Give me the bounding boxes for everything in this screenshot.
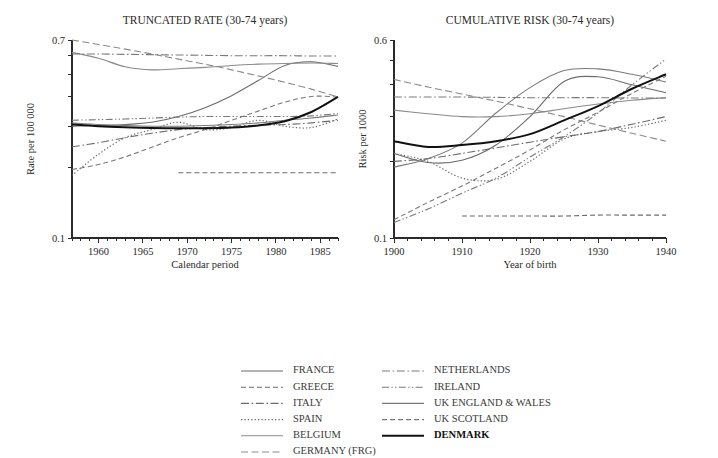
series-line-ireland: [394, 59, 666, 223]
series-line-belgium: [394, 98, 666, 117]
axis-lines: [394, 40, 666, 238]
legend-label-france: FRANCE: [293, 364, 334, 375]
panel-title-cumulative-risk: CUMULATIVE RISK (30-74 years): [446, 14, 614, 27]
y-axis-label-truncated-rate: Rate per 100 000: [25, 103, 36, 175]
legend-label-italy: ITALY: [293, 397, 323, 408]
series-line-germany-frg-: [394, 79, 666, 141]
y-axis-label-cumulative-risk: Risk per 1000: [357, 110, 368, 169]
legend-label-netherlands: NETHERLANDS: [434, 364, 511, 375]
legend-item-ireland[interactable]: IRELAND: [382, 381, 480, 392]
panel-title-truncated-rate: TRUNCATED RATE (30-74 years): [123, 14, 288, 27]
chart-panel-truncated-rate: TRUNCATED RATE (30-74 years)0.10.7Rate p…: [25, 14, 338, 270]
series-line-greece: [462, 215, 666, 216]
y-axis-ticks: 0.10.7: [52, 35, 72, 244]
y-tick-label: 0.6: [374, 35, 387, 46]
series-line-italy: [394, 117, 666, 162]
x-axis-ticks: 19001910192019301940: [384, 238, 677, 257]
figure-root: TRUNCATED RATE (30-74 years)0.10.7Rate p…: [0, 0, 718, 458]
series-line-netherlands: [394, 97, 666, 98]
x-tick-label: 1930: [588, 246, 609, 257]
x-tick-label: 1980: [265, 246, 286, 257]
legend-label-germany: GERMANY (FRG): [293, 445, 376, 457]
y-tick-label: 0.1: [52, 233, 65, 244]
legend-item-germany[interactable]: GERMANY (FRG): [241, 445, 376, 457]
x-tick-label: 1960: [88, 246, 109, 257]
legend-label-belgium: BELGIUM: [293, 429, 341, 440]
x-tick-label: 1970: [177, 246, 198, 257]
series-group: [72, 40, 338, 175]
chart-canvas: TRUNCATED RATE (30-74 years)0.10.7Rate p…: [0, 0, 718, 458]
y-tick-label: 0.7: [52, 35, 65, 46]
x-axis-ticks: 196019651970197519801985: [72, 238, 338, 257]
x-tick-label: 1975: [221, 246, 242, 257]
series-line-germany-frg-: [72, 40, 338, 97]
series-line-spain: [394, 120, 666, 181]
series-group: [394, 59, 666, 223]
chart-legend: FRANCEGREECEITALYSPAINBELGIUMGERMANY (FR…: [241, 364, 551, 457]
legend-item-italy[interactable]: ITALY: [241, 397, 323, 408]
legend-label-ireland: IRELAND: [434, 381, 480, 392]
x-tick-label: 1900: [384, 246, 405, 257]
legend-label-denmark: DENMARK: [434, 429, 490, 440]
series-line-denmark: [394, 74, 666, 147]
x-tick-label: 1965: [132, 246, 153, 257]
legend-label-spain: SPAIN: [293, 413, 323, 424]
legend-item-uk_scot[interactable]: UK SCOTLAND: [382, 413, 508, 424]
x-tick-label: 1910: [452, 246, 473, 257]
chart-panel-cumulative-risk: CUMULATIVE RISK (30-74 years)0.10.6Risk …: [357, 14, 677, 270]
series-line-belgium: [72, 52, 338, 70]
legend-item-netherlands[interactable]: NETHERLANDS: [382, 364, 511, 375]
legend-label-uk_ew: UK ENGLAND & WALES: [434, 397, 551, 408]
x-tick-label: 1940: [656, 246, 677, 257]
y-tick-label: 0.1: [374, 233, 387, 244]
legend-item-denmark[interactable]: DENMARK: [382, 429, 490, 440]
legend-item-uk_ew[interactable]: UK ENGLAND & WALES: [382, 397, 551, 408]
legend-item-belgium[interactable]: BELGIUM: [241, 429, 341, 440]
legend-label-greece: GREECE: [293, 381, 334, 392]
legend-item-greece[interactable]: GREECE: [241, 381, 334, 392]
series-line-italy: [72, 120, 338, 147]
legend-item-spain[interactable]: SPAIN: [241, 413, 323, 424]
x-axis-label-truncated-rate: Calendar period: [171, 259, 239, 270]
x-axis-label-cumulative-risk: Year of birth: [503, 259, 557, 270]
legend-item-france[interactable]: FRANCE: [241, 364, 334, 375]
legend-label-uk_scot: UK SCOTLAND: [434, 413, 508, 424]
series-line-netherlands: [72, 54, 338, 56]
y-axis-ticks: 0.10.6: [374, 35, 394, 244]
x-tick-label: 1985: [310, 246, 331, 257]
x-tick-label: 1920: [520, 246, 541, 257]
axis-lines: [72, 40, 338, 238]
